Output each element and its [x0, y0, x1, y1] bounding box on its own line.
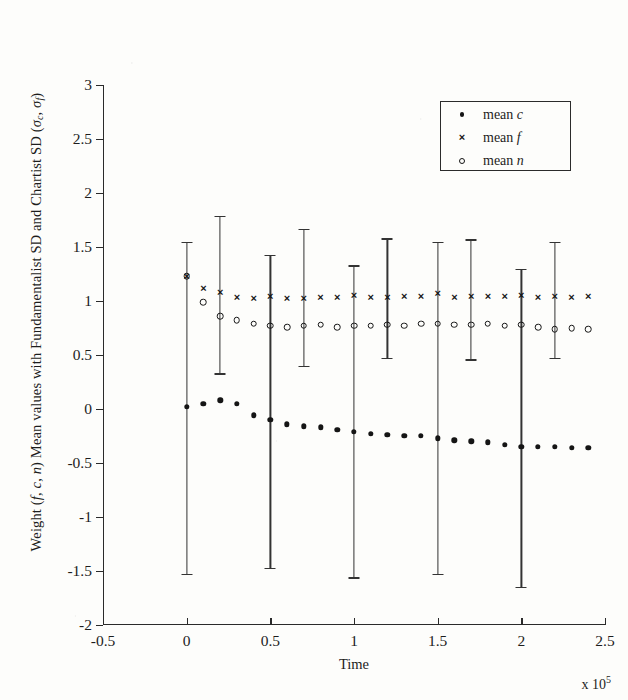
- error-bar-cap: [466, 359, 477, 360]
- data-point-dot: [401, 433, 406, 438]
- data-point-cross: ×: [383, 292, 392, 301]
- x-tick: [187, 618, 188, 625]
- data-point-dot: [485, 440, 490, 445]
- data-point-dot: [468, 439, 473, 444]
- y-title-sep-1: ,: [28, 488, 44, 496]
- x-axis-title: Time: [103, 656, 605, 673]
- data-point-cross: ×: [567, 292, 576, 301]
- y-tick: [96, 301, 103, 302]
- data-point-dot: [335, 427, 340, 432]
- error-bar-cap: [181, 574, 192, 575]
- data-point-dot: [569, 445, 574, 450]
- chart-figure: Weight (f, c, n) Mean values with Fundam…: [0, 0, 628, 700]
- data-point-dot: [201, 401, 206, 406]
- error-bar-cap: [215, 216, 226, 217]
- legend-marker-circle: [441, 158, 483, 164]
- error-bar-cap: [349, 577, 360, 578]
- error-bar-cap: [549, 358, 560, 359]
- data-point-circle: [250, 320, 257, 327]
- error-bar-cap: [349, 265, 360, 266]
- x-tick-label: 0: [183, 632, 191, 650]
- data-point-circle: [585, 326, 592, 333]
- y-title-var-n: n: [28, 467, 44, 474]
- y-tick-label: 2: [84, 184, 92, 202]
- data-point-circle: [317, 321, 324, 328]
- error-bar-cap: [298, 366, 309, 367]
- y-tick-label: -1: [79, 508, 92, 526]
- legend-label-lead: mean: [483, 107, 517, 122]
- legend-label-var: f: [517, 130, 521, 145]
- data-point-dot: [251, 413, 256, 418]
- y-title-tail: ): [28, 93, 44, 98]
- y-tick: [96, 463, 103, 464]
- data-point-circle: [568, 325, 575, 332]
- x-tick: [103, 618, 104, 625]
- data-point-cross: ×: [232, 292, 241, 301]
- data-point-cross: ×: [517, 290, 526, 299]
- y-tick-label: -0.5: [67, 454, 92, 472]
- data-point-cross: ×: [316, 292, 325, 301]
- x-tick-label: 2.5: [595, 632, 614, 650]
- data-point-cross: ×: [433, 289, 442, 298]
- legend-glyph: [459, 158, 465, 164]
- legend-marker-dot: [441, 112, 483, 116]
- data-point-circle: [401, 323, 408, 330]
- y-tick-label: 2.5: [73, 130, 92, 148]
- data-point-cross: ×: [534, 292, 543, 301]
- legend-label-var: n: [517, 153, 524, 168]
- error-bar-cap: [549, 242, 560, 243]
- data-point-circle: [468, 321, 475, 328]
- data-point-dot: [385, 432, 390, 437]
- data-point-cross: ×: [500, 291, 509, 300]
- data-point-cross: ×: [400, 291, 409, 300]
- data-point-dot: [552, 444, 557, 449]
- legend-label: mean f: [483, 130, 521, 146]
- y-title-sigma-c: σ: [28, 120, 44, 127]
- y-title-lead: Weight (: [28, 500, 44, 551]
- data-point-cross: ×: [584, 291, 593, 300]
- y-title-sigma-c-sub: c: [34, 115, 45, 120]
- data-point-dot: [452, 438, 457, 443]
- data-point-dot: [318, 425, 323, 430]
- legend-label-lead: mean: [483, 153, 517, 168]
- data-point-circle: [334, 324, 341, 331]
- x-tick: [521, 618, 522, 625]
- data-point-circle: [518, 321, 525, 328]
- chart-legend: mean c×mean fmean n: [440, 101, 571, 171]
- y-tick: [96, 571, 103, 572]
- y-title-var-c: c: [28, 482, 44, 489]
- data-point-cross: ×: [333, 292, 342, 301]
- data-point-cross: ×: [216, 288, 225, 297]
- data-point-circle: [267, 323, 274, 330]
- x-tick-label: 2: [517, 632, 525, 650]
- x-axis-exponent: x 105: [582, 674, 612, 693]
- y-tick-label: 1.5: [73, 238, 92, 256]
- y-tick-label: 1: [84, 292, 92, 310]
- y-title-sep-3: ,: [28, 108, 44, 116]
- x-tick-label: 1.5: [428, 632, 447, 650]
- data-point-cross: ×: [416, 291, 425, 300]
- legend-glyph: ×: [459, 132, 465, 143]
- legend-label: mean c: [483, 107, 523, 123]
- x-exponent-power: 5: [606, 674, 611, 685]
- error-bar-cap: [181, 242, 192, 243]
- data-point-dot: [586, 445, 591, 450]
- legend-glyph: [460, 112, 464, 116]
- x-tick: [605, 618, 606, 625]
- data-point-dot: [368, 431, 373, 436]
- data-point-circle: [234, 317, 241, 324]
- legend-item: mean n: [441, 149, 570, 172]
- data-point-dot: [301, 424, 306, 429]
- data-point-circle: [485, 320, 492, 327]
- error-bar-cap: [215, 373, 226, 374]
- data-point-cross: ×: [450, 292, 459, 301]
- data-point-circle: [384, 321, 391, 328]
- y-tick-label: 3: [84, 76, 92, 94]
- error-bar-cap: [432, 242, 443, 243]
- data-point-circle: [552, 326, 559, 333]
- data-point-dot: [418, 433, 423, 438]
- y-tick: [96, 139, 103, 140]
- error-bar-cap: [516, 587, 527, 588]
- data-point-cross: ×: [467, 291, 476, 300]
- x-tick: [270, 618, 271, 625]
